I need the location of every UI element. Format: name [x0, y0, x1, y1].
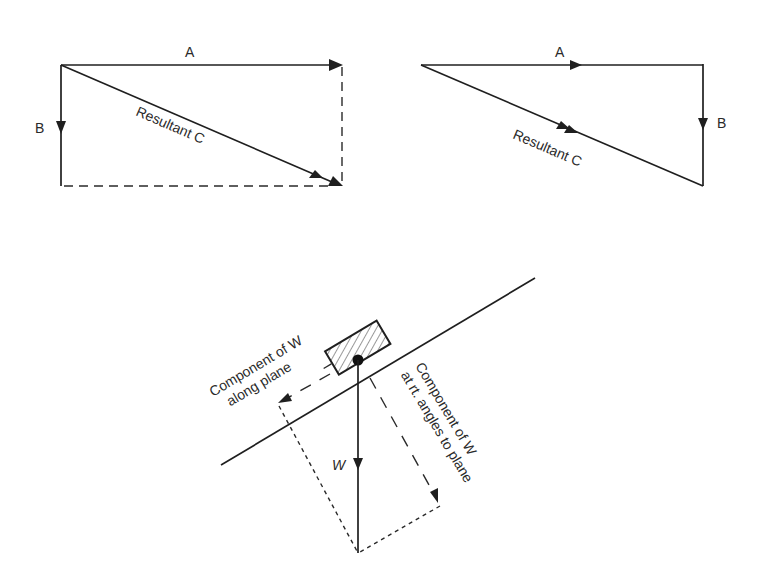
dotted-left-completion	[279, 406, 358, 553]
vector-b-arrowhead-icon	[698, 118, 708, 130]
perpendicular-label: Component of W at rt. angles to plane	[398, 359, 491, 485]
vector-b-arrowhead-icon	[56, 121, 66, 134]
label-b: B	[717, 115, 726, 131]
vector-a-arrowhead-icon	[329, 59, 343, 71]
vector-diagram: A B Resultant C A B Resultant C	[0, 0, 760, 563]
along-plane-label: Component of W along plane	[206, 332, 314, 415]
label-w: W	[332, 457, 347, 473]
vector-a-arrowhead-icon	[570, 60, 582, 70]
resultant-arrowhead-1-icon	[309, 170, 323, 178]
label-resultant: Resultant C	[134, 103, 207, 147]
resultant-line	[61, 65, 332, 182]
label-a: A	[185, 44, 195, 60]
inclined-plane-panel: W Component of W along plane Component o…	[206, 278, 535, 553]
weight-arrowhead-icon	[353, 458, 363, 470]
label-b: B	[35, 120, 44, 136]
block-center-tick	[324, 363, 333, 368]
triangle-panel: A B Resultant C	[421, 44, 726, 186]
dotted-bottom-completion	[360, 506, 440, 552]
along-plane-arrowhead-icon	[278, 393, 292, 403]
parallelogram-panel: A B Resultant C	[35, 44, 343, 186]
along-plane-component-line	[284, 374, 330, 400]
perpendicular-arrowhead-icon	[430, 488, 438, 503]
label-a: A	[555, 44, 565, 60]
